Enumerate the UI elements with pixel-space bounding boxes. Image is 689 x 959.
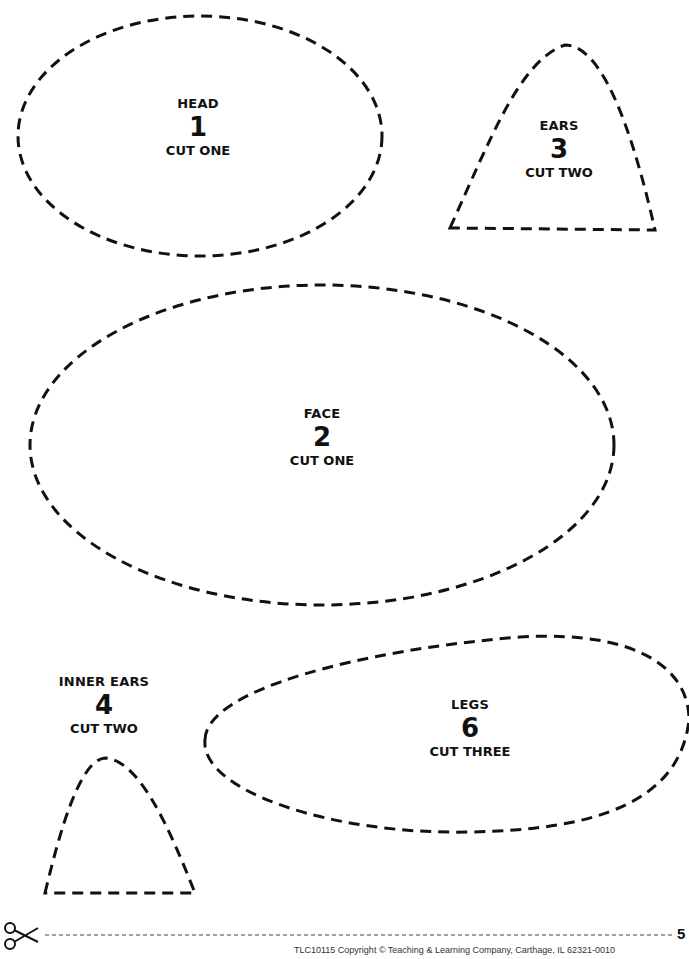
inner-ears-outline <box>45 758 195 893</box>
piece-instruction: CUT THREE <box>429 744 510 759</box>
piece-instruction: CUT ONE <box>166 143 230 158</box>
piece-instruction: CUT TWO <box>59 721 149 736</box>
piece-name: EARS <box>525 118 593 133</box>
piece-number: 2 <box>290 421 354 453</box>
piece-name: LEGS <box>429 697 510 712</box>
piece-number: 1 <box>166 111 230 143</box>
piece-label-head: HEAD 1 CUT ONE <box>166 96 230 158</box>
piece-number: 6 <box>429 712 510 744</box>
piece-label-ears: EARS 3 CUT TWO <box>525 118 593 180</box>
piece-label-legs: LEGS 6 CUT THREE <box>429 697 510 759</box>
page-number: 5 <box>677 925 685 942</box>
piece-instruction: CUT ONE <box>290 453 354 468</box>
piece-label-face: FACE 2 CUT ONE <box>290 406 354 468</box>
piece-name: FACE <box>290 406 354 421</box>
copyright-text: TLC10115 Copyright © Teaching & Learning… <box>294 945 615 955</box>
piece-name: HEAD <box>166 96 230 111</box>
piece-label-inner-ears: INNER EARS 4 CUT TWO <box>59 674 149 736</box>
piece-name: INNER EARS <box>59 674 149 689</box>
piece-number: 4 <box>59 689 149 721</box>
scissors-icon <box>5 923 38 949</box>
piece-number: 3 <box>525 133 593 165</box>
piece-instruction: CUT TWO <box>525 165 593 180</box>
